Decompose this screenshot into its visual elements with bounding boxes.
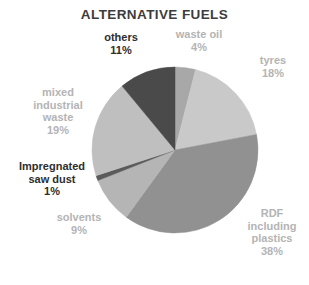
slice-label-saw-dust-line1: Impregnated: [2, 160, 102, 173]
slice-label-rdf-line3: plastics: [238, 232, 306, 245]
slice-label-impregnated-saw-dust: Impregnated saw dust 1%: [2, 160, 102, 198]
slice-label-mixed-value: 19%: [16, 124, 100, 137]
slice-label-mixed-industrial-waste: mixed industrial waste 19%: [16, 86, 100, 136]
slice-label-waste-oil: waste oil 4%: [157, 28, 241, 53]
slice-label-waste-oil-name: waste oil: [157, 28, 241, 41]
pie-chart-figure: ALTERNATIVE FUELS waste oil 4% tyres 18%…: [0, 0, 309, 285]
slice-label-solvents-name: solvents: [38, 211, 120, 224]
slice-label-waste-oil-value: 4%: [157, 41, 241, 54]
slice-label-solvents-value: 9%: [38, 224, 120, 237]
slice-label-rdf-line2: including: [238, 220, 306, 233]
slice-label-saw-dust-line2: saw dust: [2, 173, 102, 186]
slice-label-others-name: others: [83, 31, 159, 44]
slice-label-tyres-name: tyres: [243, 54, 303, 67]
slice-label-tyres: tyres 18%: [243, 54, 303, 79]
pie-slice-group: [92, 67, 258, 233]
slice-label-rdf: RDF including plastics 38%: [238, 207, 306, 257]
slice-label-mixed-line3: waste: [16, 111, 100, 124]
slice-label-others-value: 11%: [83, 44, 159, 57]
slice-label-rdf-line1: RDF: [238, 207, 306, 220]
slice-label-tyres-value: 18%: [243, 67, 303, 80]
slice-label-mixed-line1: mixed: [16, 86, 100, 99]
slice-label-mixed-line2: industrial: [16, 99, 100, 112]
slice-label-solvents: solvents 9%: [38, 211, 120, 236]
slice-label-saw-dust-value: 1%: [2, 185, 102, 198]
slice-label-others: others 11%: [83, 31, 159, 56]
slice-label-rdf-value: 38%: [238, 245, 306, 258]
